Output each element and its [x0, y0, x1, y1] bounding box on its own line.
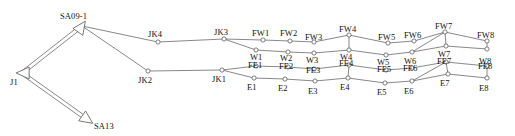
node-E8[interactable] — [485, 76, 489, 80]
node-label-JK3: JK3 — [214, 28, 228, 37]
node-E6[interactable] — [410, 79, 414, 83]
node-label-FW6: FW6 — [404, 31, 421, 40]
edge-W4-W5 — [349, 50, 386, 55]
node-E5[interactable] — [383, 81, 387, 85]
node-label-FW7: FW7 — [435, 22, 452, 31]
node-FW1[interactable] — [261, 38, 265, 42]
node-label-FE5: FE5 — [377, 65, 391, 74]
node-JK4[interactable] — [156, 40, 160, 44]
node-label-E4: E4 — [340, 83, 350, 92]
edge-E4-E5 — [348, 78, 385, 83]
node-label-FE4: FE4 — [339, 59, 353, 68]
node-label-E2: E2 — [278, 84, 288, 93]
node-label-FW3: FW3 — [305, 33, 322, 42]
node-label-FW8: FW8 — [477, 31, 494, 40]
node-label-FW1: FW1 — [252, 29, 269, 38]
node-E2[interactable] — [283, 77, 287, 81]
node-E7[interactable] — [446, 72, 450, 76]
double-edge-group — [21, 25, 89, 122]
edge-E3-E4 — [315, 78, 348, 81]
edge-E2-E3 — [285, 79, 315, 81]
node-label-E3: E3 — [308, 87, 318, 96]
node-label-E7: E7 — [440, 79, 450, 88]
node-label-FW2: FW2 — [280, 29, 297, 38]
node-E3[interactable] — [313, 79, 317, 83]
pipe-SA09-1-J1 — [21, 25, 81, 72]
arrow-node-SA09-1[interactable] — [73, 21, 85, 35]
node-label-FE6: FE6 — [403, 64, 417, 73]
edge-FW1-FW2 — [263, 40, 290, 41]
node-label-SA13: SA13 — [94, 122, 114, 131]
arrow-node-J1[interactable] — [16, 67, 29, 79]
node-label-FE2: FE2 — [279, 62, 293, 71]
edge-JK1-E1 — [222, 70, 254, 78]
node-label-FW4: FW4 — [339, 25, 356, 34]
node-label-JK4: JK4 — [148, 30, 162, 39]
node-label-E6: E6 — [404, 87, 414, 96]
edge-W5-W6 — [386, 52, 412, 55]
node-label-FW5: FW5 — [378, 33, 395, 42]
node-label-FE3: FE3 — [306, 66, 320, 75]
pipe-J1-SA13 — [21, 74, 87, 121]
edge-E7-E8 — [448, 74, 487, 78]
edge-JK2-JK1 — [148, 70, 222, 71]
node-JK1[interactable] — [220, 68, 224, 72]
node-W8[interactable] — [485, 47, 489, 51]
pipe-SA09-1-J1 — [23, 27, 83, 74]
edge-W7-W8 — [446, 46, 487, 49]
node-label-J1: J1 — [10, 78, 18, 87]
edge-E1-E2 — [254, 78, 285, 79]
node-label-FE1: FE1 — [248, 61, 262, 70]
node-label-W3: W3 — [306, 56, 318, 65]
node-E4[interactable] — [346, 76, 350, 80]
edge-JK3-FW1 — [224, 39, 263, 40]
pipe-J1-SA13 — [23, 72, 89, 119]
arrowhead-group — [16, 21, 93, 123]
diagram-canvas: JK4JK2JK3JK1FW1FW2FW3FW4FW5FW6FW7FW8W1W2… — [0, 0, 515, 136]
node-FW2[interactable] — [288, 39, 292, 43]
node-E1[interactable] — [252, 76, 256, 80]
node-label-JK1: JK1 — [212, 75, 226, 84]
node-JK2[interactable] — [146, 69, 150, 73]
node-label-E1: E1 — [247, 83, 257, 92]
node-W6[interactable] — [410, 50, 414, 54]
node-W7[interactable] — [444, 44, 448, 48]
node-JK3[interactable] — [222, 37, 226, 41]
node-label-SA09-1: SA09-1 — [60, 12, 87, 21]
node-label-FE8: FE8 — [478, 62, 492, 71]
edge-E5-E6 — [385, 81, 412, 83]
edge-JK3-W1 — [224, 39, 256, 50]
node-label-JK2: JK2 — [138, 76, 152, 85]
node-label-FE7: FE7 — [437, 57, 451, 66]
node-label-E5: E5 — [377, 88, 387, 97]
edge-JK4-JK3 — [158, 39, 224, 42]
node-label-E8: E8 — [479, 84, 489, 93]
